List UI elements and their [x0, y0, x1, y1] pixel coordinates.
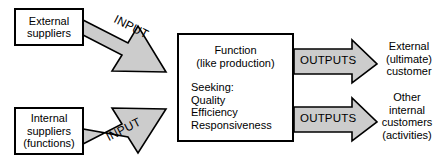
node-function-heading: Function (like production)	[179, 44, 292, 69]
node-function-seeking-list: Seeking: Quality Efficiency Responsivene…	[179, 81, 292, 131]
process-flow-diagram: External suppliers Internal suppliers (f…	[0, 0, 443, 164]
node-external-customer-line-2: (ultimate)	[378, 53, 440, 66]
node-internal-suppliers-line-3: (functions)	[23, 137, 74, 150]
node-external-suppliers-line-2: suppliers	[27, 27, 71, 40]
node-external-customer-line-3: customer	[378, 65, 440, 78]
node-external-customer-line-1: External	[378, 40, 440, 53]
node-internal-suppliers: Internal suppliers (functions)	[14, 107, 84, 155]
node-internal-customers-line-4: (activities)	[372, 129, 442, 142]
node-external-customer: External (ultimate) customer	[378, 40, 440, 78]
node-internal-suppliers-line-2: suppliers	[27, 125, 71, 138]
node-function-heading-line-1: Function	[179, 44, 292, 57]
node-function-seeking-item-1: Quality	[191, 94, 292, 107]
node-external-suppliers-line-1: External	[29, 15, 69, 28]
node-function-seeking-item-2: Efficiency	[191, 106, 292, 119]
node-function-seeking-label: Seeking:	[191, 81, 292, 94]
node-function-seeking-item-3: Responsiveness	[191, 119, 292, 132]
node-function-heading-line-2: (like production)	[179, 57, 292, 70]
node-internal-suppliers-line-1: Internal	[31, 112, 68, 125]
outputs-arrow-bottom-label: OUTPUTS	[300, 112, 356, 124]
node-function: Function (like production) Seeking: Qual…	[177, 33, 294, 142]
node-internal-customers: Other internal customers (activities)	[372, 91, 442, 141]
node-internal-customers-line-1: Other	[372, 91, 442, 104]
outputs-arrow-top-label: OUTPUTS	[300, 54, 356, 66]
node-external-suppliers: External suppliers	[14, 8, 84, 46]
node-internal-customers-line-3: customers	[372, 116, 442, 129]
node-internal-customers-line-2: internal	[372, 104, 442, 117]
